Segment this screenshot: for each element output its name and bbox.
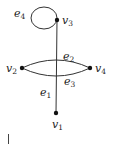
label-e2: e2	[63, 50, 75, 64]
graph-diagram: e4 v3 e2 v2 v4 e3 e1 v1	[0, 0, 114, 150]
vertex-v3	[55, 18, 59, 22]
label-v4: v4	[95, 62, 106, 76]
label-e1: e1	[40, 86, 51, 100]
label-v1: v1	[52, 118, 63, 132]
label-e4: e4	[14, 7, 26, 21]
edge-e4-loop	[31, 7, 57, 29]
edge-e1	[56, 20, 57, 113]
label-v2: v2	[6, 62, 17, 76]
label-v3: v3	[62, 14, 73, 28]
vertex-v4	[88, 66, 92, 70]
vertex-v2	[20, 66, 24, 70]
vertex-v1	[54, 111, 58, 115]
label-e3: e3	[64, 75, 76, 89]
